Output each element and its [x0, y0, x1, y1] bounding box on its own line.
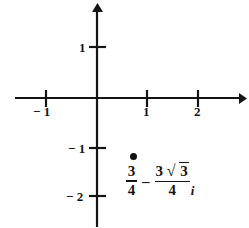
real-numerator: 3: [127, 164, 137, 180]
y-axis-arrowhead-icon: [92, 3, 103, 12]
real-part-fraction: 3 4: [126, 164, 137, 199]
sqrt-sign-icon: √: [167, 162, 176, 179]
imaginary-part-fraction: 3 √ 3 4: [155, 163, 190, 199]
minus-operator: –: [142, 174, 150, 189]
y-tick-label-1: 1: [79, 41, 86, 54]
plotted-point: [130, 153, 137, 160]
imaginary-unit: i: [191, 184, 195, 197]
x-axis-arrowhead-icon: [239, 93, 247, 104]
real-denominator: 4: [127, 183, 137, 199]
imaginary-denominator: 4: [167, 183, 177, 199]
x-tick-label-1: 1: [143, 105, 150, 118]
x-tick-label-2: 2: [194, 105, 201, 118]
complex-plane-figure: − 1 1 2 1 − 1 − 2 3 4 – 3 √ 3 4 i: [0, 0, 249, 228]
imaginary-numerator: 3 √ 3: [155, 163, 190, 180]
y-tick-label--2: − 2: [66, 190, 83, 203]
imaginary-coefficient: 3: [156, 163, 164, 179]
y-tick-label--1: − 1: [68, 142, 85, 155]
complex-number-expression: 3 4 – 3 √ 3 4 i: [126, 163, 194, 199]
sqrt-radicand: 3: [179, 162, 189, 179]
x-tick-label--1: − 1: [33, 105, 50, 118]
